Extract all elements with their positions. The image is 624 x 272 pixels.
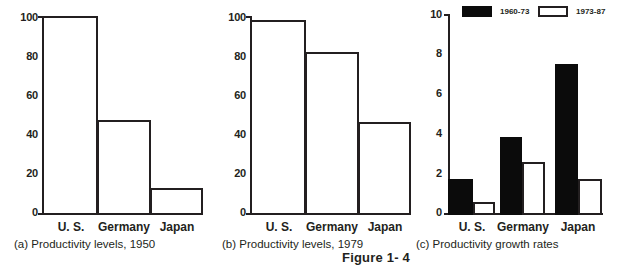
figure-1-4: 100 80 60 40 20 0 U. S. Germany Japan (a…: [0, 0, 624, 272]
y-tick-label-8-c: 8: [416, 48, 442, 59]
x-category-label-germany-b: Germany: [303, 221, 361, 234]
x-category-label-us-b: U. S.: [252, 221, 306, 234]
bar-germany-1960-73: [500, 137, 522, 215]
panel-caption-c: (c) Productivity growth rates: [416, 238, 559, 251]
plot-area-a: 100 80 60 40 20 0 U. S. Germany Japan (a…: [0, 0, 208, 272]
bar-japan-b: [358, 122, 411, 215]
y-tick-mark-100-b: [246, 16, 250, 18]
y-tick-label-0-c: 0: [416, 207, 442, 218]
y-tick-label-80-b: 80: [214, 51, 246, 62]
y-tick-label-100-b: 100: [214, 12, 246, 23]
bar-japan-1960-73: [555, 64, 578, 215]
figure-number-label: Figure 1- 4: [342, 250, 410, 265]
y-tick-label-0-a: 0: [6, 207, 38, 218]
legend-swatch-open-icon: [538, 6, 568, 17]
bar-us-1973-87: [473, 202, 495, 215]
chart-panel-c: 10 8 6 4 2 0 U. S. Germany Japan (c) Pro…: [416, 0, 624, 272]
y-tick-label-20-a: 20: [6, 168, 38, 179]
panel-caption-a: (a) Productivity levels, 1950: [14, 238, 155, 251]
x-category-label-japan-c: Japan: [552, 221, 604, 234]
bar-us-1960-73: [448, 179, 473, 215]
y-tick-label-6-c: 6: [416, 88, 442, 99]
chart-panel-b: 100 80 60 40 20 0 U. S. Germany Japan (b…: [208, 0, 416, 272]
chart-panel-a: 100 80 60 40 20 0 U. S. Germany Japan (a…: [0, 0, 208, 272]
bar-us-b: [250, 20, 306, 215]
x-category-label-japan-b: Japan: [358, 221, 412, 234]
plot-area-b: 100 80 60 40 20 0 U. S. Germany Japan (b…: [208, 0, 416, 272]
y-tick-label-40-a: 40: [6, 129, 38, 140]
x-category-label-germany-a: Germany: [95, 221, 153, 234]
bar-japan-1973-87: [578, 179, 602, 215]
plot-area-c: 10 8 6 4 2 0 U. S. Germany Japan (c) Pro…: [416, 0, 624, 272]
x-category-label-us-c: U. S.: [446, 221, 498, 234]
y-tick-label-80-a: 80: [6, 51, 38, 62]
x-category-label-germany-c: Germany: [495, 221, 551, 234]
y-tick-label-60-b: 60: [214, 90, 246, 101]
y-tick-label-2-c: 2: [416, 168, 442, 179]
y-tick-label-60-a: 60: [6, 90, 38, 101]
y-tick-label-4-c: 4: [416, 128, 442, 139]
y-tick-mark-10-c: [444, 14, 448, 16]
bar-japan-a: [150, 188, 203, 215]
bar-germany-a: [97, 120, 151, 215]
bar-germany-1973-87: [522, 162, 545, 215]
x-category-label-us-a: U. S.: [44, 221, 98, 234]
bar-us-a: [42, 16, 98, 215]
y-tick-label-100-a: 100: [6, 12, 38, 23]
legend-swatch-filled-icon: [462, 6, 492, 17]
y-tick-label-40-b: 40: [214, 129, 246, 140]
y-tick-label-0-b: 0: [214, 207, 246, 218]
y-tick-label-10-c: 10: [416, 9, 442, 20]
x-category-label-japan-a: Japan: [150, 221, 204, 234]
y-tick-label-20-b: 20: [214, 168, 246, 179]
legend-label-1960-73: 1960-73: [500, 6, 529, 17]
bar-germany-b: [305, 52, 359, 215]
legend: 1960-73 1973-87: [462, 5, 612, 21]
legend-label-1973-87: 1973-87: [576, 6, 605, 17]
